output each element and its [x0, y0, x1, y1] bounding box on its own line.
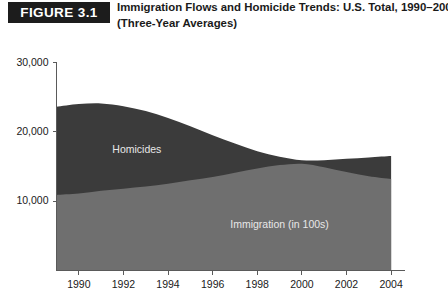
- series-annotation-label: Immigration (in 100s): [230, 218, 329, 230]
- figure-title-line-2: (Three-Year Averages): [117, 16, 448, 32]
- series-annotation-label: Homicides: [112, 143, 161, 155]
- x-tick-label: 2000: [290, 278, 314, 290]
- x-tick-label: 1994: [156, 278, 180, 290]
- x-tick-label: 1998: [246, 278, 270, 290]
- x-tick-label: 1990: [67, 278, 91, 290]
- figure-number-badge: FIGURE 3.1: [8, 2, 110, 23]
- chart-series-bands: [57, 103, 392, 270]
- y-axis-ticks: 10,00020,00030,000: [16, 56, 56, 207]
- y-tick-label: 10,000: [16, 194, 48, 206]
- x-tick-label: 1992: [112, 278, 136, 290]
- figure-header: FIGURE 3.1 Immigration Flows and Homicid…: [0, 0, 448, 46]
- chart-area: 10,00020,00030,000 199019921994199619982…: [0, 46, 448, 305]
- x-axis-ticks: 19901992199419961998200020022004: [67, 271, 403, 290]
- x-tick-label: 2004: [379, 278, 403, 290]
- area-chart: 10,00020,00030,000 199019921994199619982…: [0, 46, 448, 305]
- figure-title: Immigration Flows and Homicide Trends: U…: [117, 0, 448, 31]
- x-tick-label: 2002: [335, 278, 359, 290]
- y-tick-label: 30,000: [16, 56, 48, 68]
- y-tick-label: 20,000: [16, 125, 48, 137]
- figure-title-line-1: Immigration Flows and Homicide Trends: U…: [117, 0, 448, 16]
- x-tick-label: 1996: [201, 278, 225, 290]
